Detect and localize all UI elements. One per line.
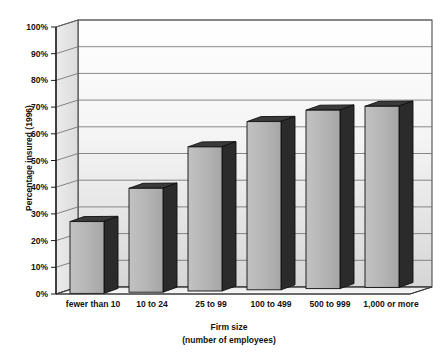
y-axis-title: Percentage insured (1996): [24, 105, 34, 211]
y-tick-label: 100%: [26, 22, 48, 32]
bar-100-to-499: [247, 116, 295, 289]
x-tick-label: 100 to 499: [250, 299, 291, 309]
bar-front-face: [129, 188, 163, 292]
x-tick-label: 500 to 999: [309, 299, 350, 309]
x-axis-title: Firm size: [211, 322, 248, 332]
bar-1000-or-more: [365, 101, 413, 287]
y-tick-label: 80%: [31, 75, 48, 85]
bar-front-face: [247, 122, 281, 290]
y-tick-label: 90%: [31, 49, 48, 59]
x-axis-title-line2: (number of employees): [182, 335, 276, 345]
bar-10-to-24: [129, 183, 177, 292]
bar-front-face: [306, 110, 340, 288]
y-tick-label: 0%: [36, 289, 49, 299]
bar-chart-figure: 100% 90% 80% 70% 60% 50% 40% 30% 20% 10%…: [0, 0, 445, 359]
bar-25-to-99: [188, 142, 236, 291]
bar-fewer-than-10: [70, 216, 118, 293]
bar-side-face: [222, 142, 236, 291]
x-tick-label: fewer than 10: [66, 299, 121, 309]
y-tick-label: 20%: [31, 236, 48, 246]
bar-side-face: [281, 116, 295, 289]
bar-front-face: [70, 222, 104, 294]
x-tick-label: 10 to 24: [136, 299, 168, 309]
bar-side-face: [399, 101, 413, 287]
bar-front-face: [365, 106, 399, 287]
bar-side-face: [163, 183, 177, 292]
x-tick-label: 25 to 99: [195, 299, 227, 309]
bar-500-to-999: [306, 105, 354, 289]
chart-svg: 100% 90% 80% 70% 60% 50% 40% 30% 20% 10%…: [0, 0, 445, 359]
bar-side-face: [104, 216, 118, 293]
y-tick-label: 10%: [31, 262, 48, 272]
bar-side-face: [340, 105, 354, 289]
x-tick-label: 1,000 or more: [363, 299, 419, 309]
bar-front-face: [188, 147, 222, 291]
